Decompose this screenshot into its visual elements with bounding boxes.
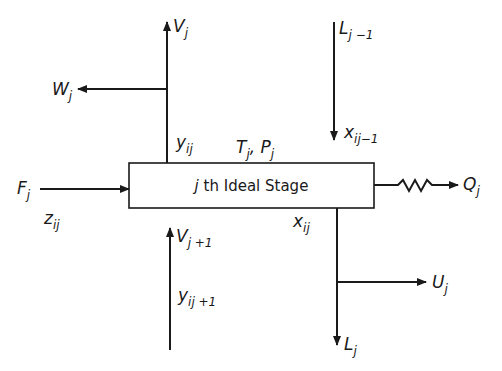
label-feed: Fj xyxy=(17,180,30,197)
label-vapor-in-comp: yij +1 xyxy=(178,287,216,304)
label-liquid-in-comp: xij−1 xyxy=(344,124,378,141)
label-vapor-out: Vj xyxy=(173,18,188,35)
label-liquid-out-comp: xij xyxy=(293,213,310,230)
stage-title-text: th Ideal Stage xyxy=(204,177,309,195)
label-liquid-out: Lj xyxy=(344,336,357,353)
label-liquid-in: Lj −1 xyxy=(339,20,373,37)
label-heat: Qj xyxy=(463,176,480,193)
label-liquid-sidedraw: Uj xyxy=(432,274,448,291)
stage-title-j: j xyxy=(195,177,199,195)
label-stage-conditions: Tj, Pj xyxy=(236,139,274,156)
label-vapor-in: Vj +1 xyxy=(176,228,212,245)
heat-zigzag xyxy=(374,180,458,191)
label-vapor-sidedraw: Wj xyxy=(52,81,72,98)
label-feed-comp: zij xyxy=(44,210,60,227)
stage-title: j th Ideal Stage xyxy=(129,163,374,208)
label-vapor-out-comp: yij xyxy=(176,134,193,151)
